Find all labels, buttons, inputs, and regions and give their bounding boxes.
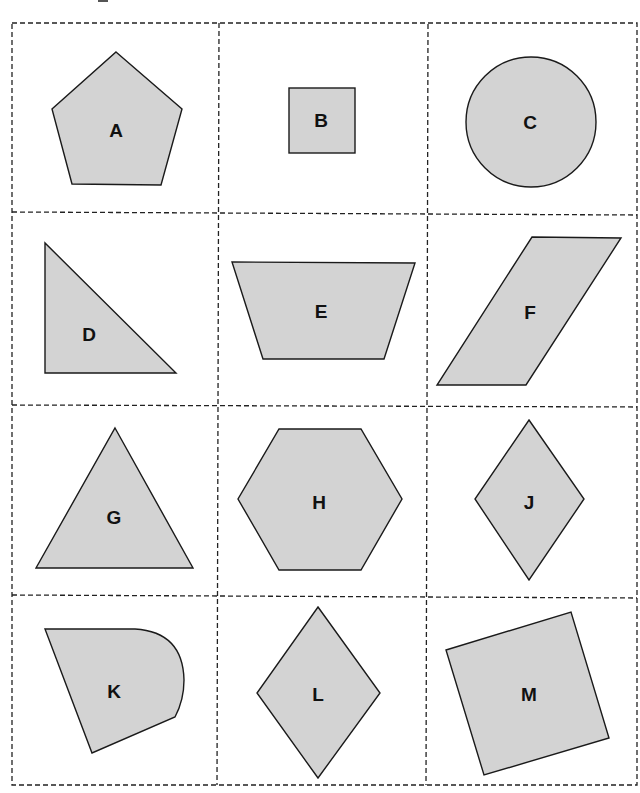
label-d: D bbox=[82, 325, 96, 344]
label-b: B bbox=[314, 111, 328, 130]
label-h: H bbox=[312, 493, 326, 512]
label-f: F bbox=[524, 303, 536, 322]
column-divider-2 bbox=[426, 24, 428, 785]
row-divider-2 bbox=[12, 405, 637, 407]
label-j: J bbox=[524, 493, 535, 512]
label-m: M bbox=[521, 685, 537, 704]
shape-d-right-triangle bbox=[45, 243, 176, 373]
label-l: L bbox=[312, 685, 324, 704]
row-divider-3 bbox=[12, 595, 637, 598]
shape-a-pentagon bbox=[52, 52, 182, 185]
label-g: G bbox=[107, 508, 122, 527]
shape-cards-diagram: A B C D E F G H J K L M bbox=[0, 0, 640, 793]
column-divider-1 bbox=[217, 23, 219, 785]
label-c: C bbox=[523, 113, 537, 132]
label-a: A bbox=[109, 121, 123, 140]
row-divider-1 bbox=[12, 212, 637, 215]
label-e: E bbox=[315, 302, 328, 321]
label-k: K bbox=[107, 682, 121, 701]
shape-g-triangle bbox=[36, 428, 193, 568]
